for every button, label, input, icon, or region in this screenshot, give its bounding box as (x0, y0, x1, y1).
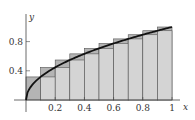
x-axis-label: x (183, 102, 188, 112)
lower-rect (84, 54, 99, 100)
riemann-sum-chart: 0.20.40.60.81 0.40.8 x y (0, 0, 195, 120)
lower-rect (70, 60, 85, 100)
lower-rect (55, 67, 70, 100)
lower-rect (128, 39, 143, 100)
y-axis-label: y (28, 12, 35, 22)
lower-rect (114, 43, 129, 100)
x-tick-label: 0.8 (136, 103, 151, 113)
y-tick-label: 0.8 (9, 37, 24, 47)
lower-rect (157, 31, 172, 100)
y-ticks: 0.40.8 (9, 37, 30, 76)
upper-rect (26, 77, 41, 100)
lower-rect (99, 48, 114, 100)
x-tick-label: 1 (169, 103, 175, 113)
x-tick-label: 0.6 (106, 103, 121, 113)
lower-rect (143, 35, 158, 100)
lower-rect (41, 77, 56, 100)
y-tick-label: 0.4 (9, 66, 24, 76)
x-tick-label: 0.2 (48, 103, 62, 113)
x-tick-label: 0.4 (77, 103, 92, 113)
